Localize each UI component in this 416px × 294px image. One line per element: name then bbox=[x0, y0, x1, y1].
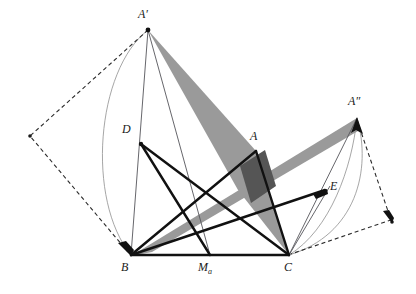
vertex-label-B: B bbox=[121, 261, 128, 273]
segment-Aprime-Ma bbox=[148, 30, 210, 255]
vertex-label-A-prime: A′ bbox=[138, 8, 148, 20]
vertex-dot-Aprime bbox=[146, 28, 151, 33]
vertex-dot-D bbox=[139, 142, 143, 146]
vertex-label-M-a: Ma bbox=[198, 261, 212, 276]
vertex-label-A: A bbox=[250, 130, 257, 142]
vertex-label-D: D bbox=[122, 123, 131, 135]
geometry-figure: A′ A″ A D E B C Ma bbox=[0, 0, 416, 294]
segment-B-A bbox=[131, 151, 256, 255]
figure-canvas bbox=[0, 0, 416, 294]
vertex-label-E: E bbox=[330, 180, 337, 192]
gray-wedge-Aprime-to-C bbox=[148, 30, 289, 255]
vertex-label-C: C bbox=[284, 261, 292, 273]
dashed-path-left bbox=[30, 30, 148, 252]
vertex-label-A-double-prime: A″ bbox=[348, 95, 360, 107]
corner-dot-left bbox=[28, 134, 32, 138]
segment-C-Aprimeprime bbox=[289, 118, 357, 255]
